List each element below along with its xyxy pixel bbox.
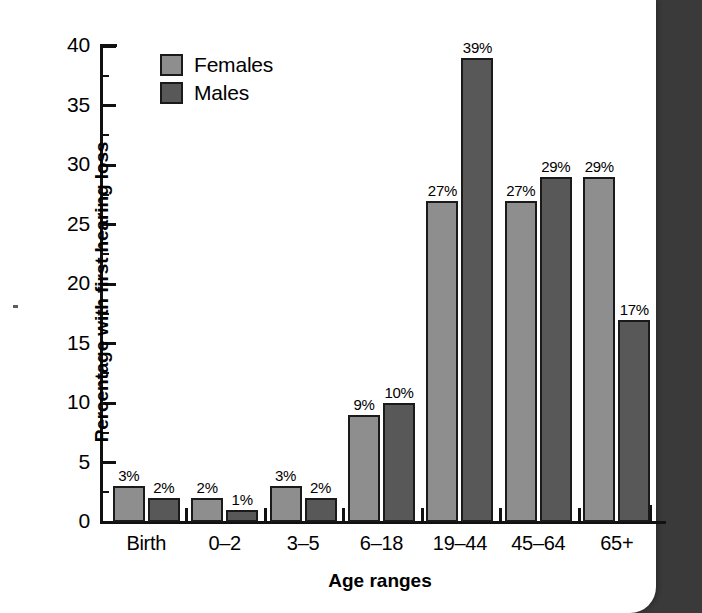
bar-females-19–44 [426,201,458,522]
x-tick [185,508,188,522]
bar-females-65+ [583,177,615,522]
bar-males-Birth [148,498,180,522]
legend-label-females: Females [194,53,273,77]
bar-label-females-65+: 29% [574,158,624,175]
legend-item-females: Females [160,52,273,78]
x-tick [578,508,581,522]
bar-label-males-65+: 17% [609,301,659,318]
y-tick-label-10: 10 [40,390,90,414]
y-tick-label-5: 5 [40,450,90,474]
y-tick-label-30: 30 [40,152,90,176]
bar-label-females-19–44: 27% [417,182,467,199]
legend-swatch-females-icon [160,54,183,76]
y-tick-label-40: 40 [40,33,90,57]
bar-males-3–5 [305,498,337,522]
x-tick [421,508,424,522]
screenshot-root: 0510152025303540 3%2%2%1%3%2%9%10%27%39%… [0,0,702,613]
x-axis-title: Age ranges [100,570,660,592]
bar-females-6–18 [348,415,380,522]
bar-males-65+ [618,320,650,522]
x-tick [342,508,345,522]
bar-males-19–44 [461,58,493,522]
y-tick-label-15: 15 [40,331,90,355]
bar-label-males-0–2: 1% [217,491,267,508]
bar-females-45–64 [505,201,537,522]
bar-label-males-6–18: 10% [374,384,424,401]
bar-label-males-19–44: 39% [452,39,502,56]
bar-males-6–18 [383,403,415,522]
legend-label-males: Males [194,81,249,105]
bar-males-0–2 [226,510,258,522]
bar-males-45–64 [540,177,572,522]
y-axis-title: Percentage with first hearing loss [91,82,113,502]
legend-item-males: Males [160,80,273,106]
x-tick [499,508,502,522]
chart-legend: Females Males [160,52,273,108]
x-tick [264,508,267,522]
y-tick-40 [100,45,116,48]
y-tick-label-35: 35 [40,93,90,117]
y-tick-label-25: 25 [40,212,90,236]
y-tick-label-0: 0 [40,509,90,533]
legend-swatch-males-icon [160,82,183,104]
bar-label-females-45–64: 27% [496,182,546,199]
y-tick-label-20: 20 [40,271,90,295]
bar-chart: 0510152025303540 3%2%2%1%3%2%9%10%27%39%… [0,0,702,613]
x-category-label-65+: 65+ [557,532,677,555]
bar-label-males-3–5: 2% [296,479,346,496]
y-tick-minor [100,75,109,77]
